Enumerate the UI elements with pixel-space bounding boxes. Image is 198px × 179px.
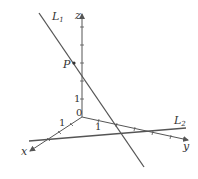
l2-label: L2 (173, 114, 186, 128)
line-l1 (39, 13, 144, 167)
x-axis-label: x (21, 145, 28, 158)
y-unit-label: 1 (95, 121, 101, 132)
point-p-marker (72, 61, 75, 64)
point-p-label: P (62, 58, 71, 71)
diagram-3d-lines: L1 L2 P z x y 0 1 1 1 (0, 0, 198, 179)
origin-label: 0 (76, 107, 82, 118)
y-axis-ticks (98, 119, 171, 139)
z-unit-label: 1 (74, 93, 80, 104)
diagram-canvas: L1 L2 P z x y 0 1 1 1 (0, 0, 198, 179)
z-axis-label: z (74, 9, 81, 22)
x-unit-label: 1 (59, 117, 65, 128)
l1-label: L1 (51, 10, 64, 24)
x-axis (30, 117, 82, 151)
y-axis-label: y (182, 140, 190, 153)
